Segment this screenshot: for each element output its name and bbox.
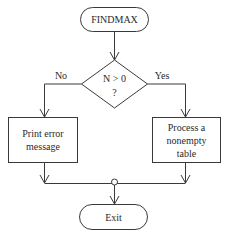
start-node: FINDMAX	[81, 8, 149, 32]
process-line-2: nonempty	[167, 135, 207, 146]
junction-connector	[112, 179, 118, 185]
arrow-start-to-decision	[110, 32, 119, 61]
no-label: No	[55, 70, 67, 81]
no-branch: No	[40, 70, 82, 117]
arrow-left-to-merge	[40, 163, 49, 184]
yes-branch: Yes	[148, 70, 191, 117]
decision-question-mark: ?	[112, 87, 117, 98]
process-line-3: table	[177, 148, 197, 159]
process-line-1: Process a	[168, 122, 206, 133]
yes-label: Yes	[155, 70, 170, 81]
flowchart: FINDMAX N > 0 ? No Yes Print error messa…	[0, 0, 226, 244]
arrow-junction-to-exit	[110, 185, 119, 204]
print-error-line-1: Print error	[22, 128, 64, 139]
exit-node: Exit	[80, 205, 148, 230]
print-error-box: Print error message	[9, 118, 78, 163]
start-label: FINDMAX	[91, 14, 138, 25]
process-table-box: Process a nonempty table	[153, 118, 221, 163]
exit-label: Exit	[105, 212, 122, 223]
decision-condition: N > 0	[103, 73, 126, 84]
arrow-right-to-merge	[181, 163, 190, 184]
print-error-line-2: message	[26, 141, 60, 152]
decision-node: N > 0 ?	[82, 60, 148, 108]
